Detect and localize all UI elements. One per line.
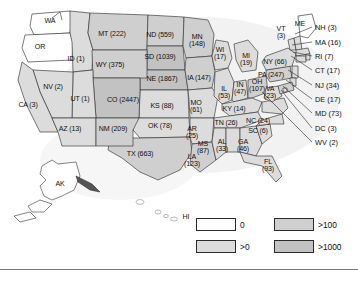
legend-swatch-0 <box>196 218 236 231</box>
state-label-LA: LA(123) <box>184 154 200 169</box>
state-label-UT: UT (1) <box>70 96 89 104</box>
state-label-KY: KY (14) <box>223 106 246 114</box>
state-label-GA: GA(46) <box>237 139 249 154</box>
state-label-IN: IN(47) <box>234 82 246 97</box>
state-label-NC: NC (24) <box>246 118 270 126</box>
legend-label-3: >1000 <box>318 242 342 252</box>
state-UT <box>72 70 96 118</box>
state-label-IA: IA (147) <box>187 75 211 83</box>
state-label-ME: ME <box>295 21 305 29</box>
state-label-ND: ND (559) <box>146 32 174 40</box>
state-label-OH: OH(107) <box>249 79 265 94</box>
callout-label-MA: MA (16) <box>315 38 341 47</box>
bottom-divider <box>0 269 358 270</box>
state-label-NE: NE (1867) <box>147 76 178 84</box>
state-label-OK: OK (78) <box>148 123 172 131</box>
state-label-TX: TX (663) <box>127 151 153 159</box>
state-label-VT: VT(3) <box>277 26 286 41</box>
us-choropleth-map-figure: WAORID (1)MT (222)ND (559)MN(148)WI(17)M… <box>0 0 358 281</box>
state-label-ID: ID (1) <box>68 56 85 64</box>
legend-swatch-1 <box>196 240 236 253</box>
legend-label-2: >100 <box>318 220 337 230</box>
legend-swatch-2 <box>274 218 314 231</box>
legend-label-1: >0 <box>240 242 250 252</box>
state-label-PA: PA (247) <box>258 72 284 80</box>
callout-label-NH: NH (3) <box>315 23 337 32</box>
state-label-CO: CO (2447) <box>107 97 139 105</box>
state-label-MT: MT (222) <box>98 31 125 39</box>
state-label-MO: MO(61) <box>190 100 202 115</box>
state-label-AZ: AZ (13) <box>59 126 82 134</box>
state-label-CA: CA (3) <box>18 102 37 110</box>
callout-label-DE: DE (17) <box>315 95 340 104</box>
state-label-AK: AK <box>55 181 64 189</box>
state-label-SC: SC (6) <box>248 128 268 136</box>
legend-entry-3: >1000 <box>274 240 342 253</box>
state-IA <box>185 56 215 90</box>
callout-label-CT: CT (17) <box>315 66 340 75</box>
legend-swatch-3 <box>274 240 314 253</box>
legend-entry-0: 0 <box>196 218 245 231</box>
map-canvas: WAORID (1)MT (222)ND (559)MN(148)WI(17)M… <box>0 0 358 240</box>
state-NJ <box>292 66 298 78</box>
state-label-VA: VA(23) <box>264 86 276 101</box>
state-label-MI: MI(19) <box>240 53 252 68</box>
state-label-OR: OR <box>35 44 45 52</box>
state-label-WA: WA <box>45 18 56 26</box>
state-label-FL: FL(93) <box>262 159 274 174</box>
state-CT <box>296 56 306 62</box>
state-label-NY: NY (66) <box>263 59 286 67</box>
state-label-WI: WI(17) <box>214 47 226 62</box>
callout-label-MD: MD (73) <box>315 109 342 118</box>
legend-entry-1: >0 <box>196 240 250 253</box>
state-DC <box>283 88 287 92</box>
hawaii-inset <box>136 200 177 221</box>
map-legend: 0 >0 >100 >1000 <box>196 218 348 262</box>
callout-label-DC: DC (3) <box>315 124 337 133</box>
callout-label-RI: RI (7) <box>315 52 333 61</box>
state-OR <box>22 33 73 62</box>
state-label-AL: AL(33) <box>216 139 228 154</box>
state-label-TN: TN (26) <box>215 120 238 128</box>
state-label-NM: NM (209) <box>99 126 127 134</box>
legend-entry-2: >100 <box>274 218 337 231</box>
state-label-KS: KS (88) <box>151 103 174 111</box>
state-label-SD: SD (1039) <box>145 54 176 62</box>
state-label-AR: AR(25) <box>186 126 198 141</box>
legend-label-0: 0 <box>240 220 245 230</box>
state-label-WY: WY (375) <box>96 62 125 70</box>
callout-label-NJ: NJ (34) <box>315 81 339 90</box>
state-label-MN: MN(148) <box>189 34 205 49</box>
state-label-HI: HI <box>183 214 190 222</box>
state-label-IL: IL(53) <box>218 86 230 101</box>
us-map-svg <box>0 0 358 240</box>
callout-label-WV: WV (2) <box>315 138 338 147</box>
state-label-NV: NV (2) <box>43 84 63 92</box>
